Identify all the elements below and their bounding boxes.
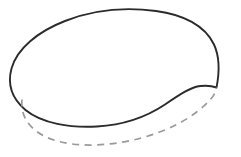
- figure-canvas: [0, 0, 241, 157]
- figure-background: [0, 0, 241, 157]
- figure-container: [0, 0, 241, 157]
